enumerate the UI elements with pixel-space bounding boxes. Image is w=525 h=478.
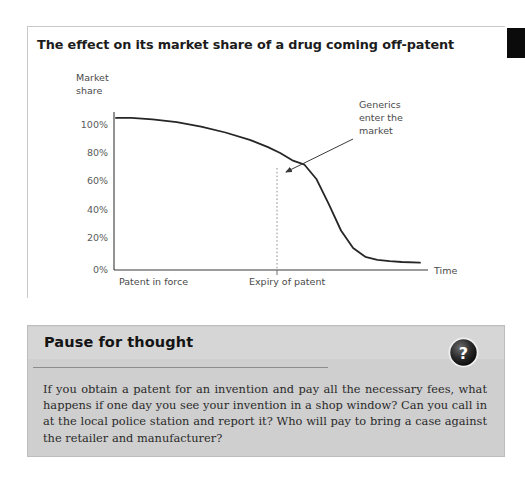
annotation-line1: Generics bbox=[359, 99, 401, 110]
market-share-curve bbox=[116, 118, 420, 263]
y-tick-0: 0% bbox=[93, 264, 108, 275]
x-axis-label: Time bbox=[433, 265, 457, 276]
pause-heading: Pause for thought bbox=[44, 334, 193, 350]
x-tick-patent-in-force: Patent in force bbox=[119, 276, 188, 287]
annotation-line3: market bbox=[359, 125, 393, 136]
generics-annotation-arrow bbox=[286, 139, 353, 172]
chapter-thumb-tab bbox=[507, 28, 525, 58]
y-axis-label-line2: share bbox=[76, 85, 102, 96]
y-tick-40: 40% bbox=[87, 204, 108, 215]
pause-divider bbox=[33, 367, 328, 368]
y-tick-80: 80% bbox=[87, 147, 108, 158]
y-tick-100: 100% bbox=[81, 119, 108, 130]
pause-body-text: If you obtain a patent for an invention … bbox=[43, 381, 487, 446]
market-share-chart: Market share 100% 80% 60% 40% 20% 0% bbox=[28, 27, 506, 299]
pause-for-thought-panel: Pause for thought If you obtain a patent… bbox=[27, 325, 505, 457]
question-mark-icon: ? bbox=[448, 337, 479, 368]
y-tick-20: 20% bbox=[87, 232, 108, 243]
x-tick-expiry-of-patent: Expiry of patent bbox=[249, 276, 325, 287]
svg-text:?: ? bbox=[459, 344, 468, 363]
y-tick-60: 60% bbox=[87, 175, 108, 186]
y-axis-label-line1: Market bbox=[76, 72, 109, 83]
figure-card: The effect on its market share of a drug… bbox=[27, 26, 505, 298]
annotation-line2: enter the bbox=[359, 112, 403, 123]
